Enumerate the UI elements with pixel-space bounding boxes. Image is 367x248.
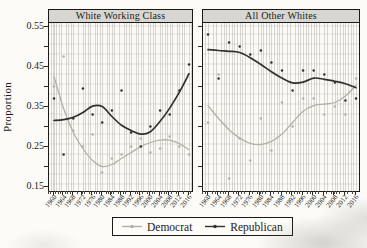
panel-title: White Working Class <box>76 10 165 21</box>
democrat-loess-line <box>208 85 356 144</box>
legend-label: Democrat <box>147 221 192 233</box>
y-axis-title: Proportion <box>1 72 13 142</box>
republican-point <box>291 89 294 92</box>
democrat-point <box>149 151 152 154</box>
democrat-point <box>249 159 252 162</box>
democrat-point <box>270 149 273 152</box>
democrat-point <box>140 137 143 140</box>
democrat-point <box>312 97 315 100</box>
panel-plot <box>202 23 360 192</box>
democrat-point <box>188 153 191 156</box>
legend: DemocratRepublican <box>112 217 293 236</box>
y-tick-label: 0.25 <box>15 140 44 152</box>
republican-point <box>82 87 85 90</box>
y-tick-label: 0.55 <box>15 20 44 32</box>
republican-point <box>53 97 56 100</box>
republican-loess-line <box>54 74 189 134</box>
democrat-point <box>62 55 65 58</box>
republican-point <box>217 77 220 80</box>
legend-item-republican: Republican <box>205 221 282 233</box>
democrat-point <box>159 147 162 150</box>
republican-point <box>238 45 241 48</box>
democrat-point <box>281 101 284 104</box>
republican-point <box>344 99 347 102</box>
democrat-legend-marker-icon <box>122 222 142 231</box>
republican-legend-marker-icon <box>205 222 225 231</box>
panel: All Other Whites <box>202 9 360 192</box>
republican-point <box>140 145 143 148</box>
republican-point <box>120 89 123 92</box>
democrat-point <box>291 125 294 128</box>
panel-series-svg <box>203 23 361 190</box>
democrat-point <box>344 113 347 116</box>
panel-header: All Other Whites <box>202 9 360 23</box>
republican-point <box>281 69 284 72</box>
republican-point <box>270 61 273 64</box>
republican-point <box>168 113 171 116</box>
democrat-point <box>101 171 104 174</box>
republican-point <box>323 73 326 76</box>
republican-point <box>101 121 104 124</box>
democrat-point <box>334 105 337 108</box>
democrat-point <box>53 85 56 88</box>
y-tick-label: 0.35 <box>15 100 44 112</box>
republican-point <box>228 41 231 44</box>
democrat-point <box>302 97 305 100</box>
republican-point <box>249 53 252 56</box>
republican-point <box>207 33 210 36</box>
democrat-point <box>178 145 181 148</box>
democrat-point <box>168 135 171 138</box>
democrat-point <box>228 177 231 180</box>
republican-point <box>312 69 315 72</box>
panel-plot <box>48 23 193 192</box>
y-tick-label: 0.15 <box>15 180 44 192</box>
republican-point <box>302 69 305 72</box>
panel: White Working Class <box>48 9 193 192</box>
democrat-point <box>130 145 133 148</box>
republican-point <box>260 49 263 52</box>
republican-point <box>188 63 191 66</box>
faceted-scatter-loess-chart: Proportion 0.550.450.350.250.15White Wor… <box>0 0 367 248</box>
democrat-point <box>120 153 123 156</box>
democrat-point <box>207 121 210 124</box>
republican-point <box>111 109 114 112</box>
panel-series-svg <box>49 23 194 190</box>
democrat-point <box>217 73 220 76</box>
democrat-point <box>323 113 326 116</box>
democrat-point <box>91 133 94 136</box>
republican-point <box>62 153 65 156</box>
panel-title: All Other Whites <box>245 10 317 21</box>
democrat-point <box>111 157 114 160</box>
legend-label: Republican <box>230 221 282 233</box>
republican-point <box>355 97 358 100</box>
legend-item-democrat: Democrat <box>122 221 192 233</box>
republican-point <box>91 113 94 116</box>
y-tick-label: 0.45 <box>15 60 44 72</box>
democrat-point <box>355 77 358 80</box>
republican-point <box>159 109 162 112</box>
panel-header: White Working Class <box>48 9 193 23</box>
democrat-point <box>260 117 263 120</box>
republican-point <box>149 125 152 128</box>
